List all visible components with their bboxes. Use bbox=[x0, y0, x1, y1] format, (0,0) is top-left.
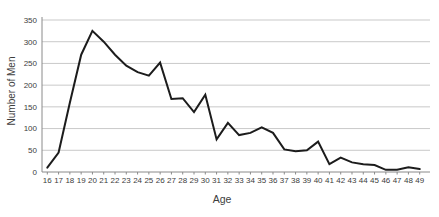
x-tick-label: 28 bbox=[178, 176, 187, 185]
x-tick-label: 35 bbox=[257, 176, 266, 185]
y-tick-label: 350 bbox=[24, 16, 38, 25]
x-tick-label: 26 bbox=[156, 176, 165, 185]
x-tick-label: 43 bbox=[348, 176, 357, 185]
y-tick-label: 0 bbox=[33, 168, 38, 177]
x-tick-label: 36 bbox=[269, 176, 278, 185]
x-tick-label: 16 bbox=[43, 176, 52, 185]
x-tick-label: 31 bbox=[212, 176, 221, 185]
y-tick-label: 300 bbox=[24, 38, 38, 47]
y-tick-label: 150 bbox=[24, 103, 38, 112]
x-tick-label: 23 bbox=[122, 176, 131, 185]
x-tick-label: 25 bbox=[144, 176, 153, 185]
x-tick-label: 20 bbox=[88, 176, 97, 185]
x-tick-label: 45 bbox=[370, 176, 379, 185]
x-tick-label: 29 bbox=[190, 176, 199, 185]
x-tick-label: 49 bbox=[415, 176, 424, 185]
x-tick-label: 46 bbox=[381, 176, 390, 185]
x-axis-title: Age bbox=[30, 193, 414, 205]
x-tick-label: 27 bbox=[167, 176, 176, 185]
x-tick-label: 24 bbox=[133, 176, 142, 185]
x-tick-label: 30 bbox=[201, 176, 210, 185]
x-tick-label: 17 bbox=[54, 176, 63, 185]
y-tick-label: 250 bbox=[24, 59, 38, 68]
x-tick-label: 42 bbox=[336, 176, 345, 185]
x-tick-label: 44 bbox=[359, 176, 368, 185]
y-tick-label: 100 bbox=[24, 124, 38, 133]
x-tick-label: 32 bbox=[223, 176, 232, 185]
x-tick-label: 40 bbox=[314, 176, 323, 185]
x-tick-label: 18 bbox=[65, 176, 74, 185]
y-tick-label: 200 bbox=[24, 81, 38, 90]
plot-area: 0501001502002503003501617181920212223242… bbox=[0, 0, 439, 217]
data-line bbox=[47, 31, 419, 170]
x-tick-label: 47 bbox=[393, 176, 402, 185]
x-tick-label: 38 bbox=[291, 176, 300, 185]
x-tick-label: 22 bbox=[111, 176, 120, 185]
x-tick-label: 41 bbox=[325, 176, 334, 185]
x-tick-label: 39 bbox=[302, 176, 311, 185]
x-tick-label: 33 bbox=[235, 176, 244, 185]
x-tick-label: 37 bbox=[280, 176, 289, 185]
x-tick-label: 21 bbox=[99, 176, 108, 185]
y-axis-title: Number of Men bbox=[6, 31, 20, 151]
x-tick-label: 19 bbox=[77, 176, 86, 185]
x-tick-label: 34 bbox=[246, 176, 255, 185]
x-tick-label: 48 bbox=[404, 176, 413, 185]
line-chart: 0501001502002503003501617181920212223242… bbox=[0, 0, 439, 217]
y-tick-label: 50 bbox=[28, 146, 37, 155]
